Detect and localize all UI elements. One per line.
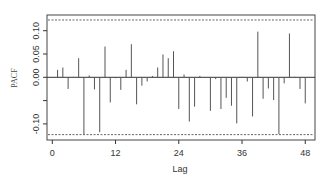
x-axis: 012243648 — [50, 140, 310, 158]
y-tick-label: 0.10 — [31, 22, 41, 40]
x-tick-label: 36 — [237, 148, 247, 158]
y-tick-label: 0.05 — [31, 45, 41, 63]
x-tick-label: 48 — [300, 148, 310, 158]
y-axis-title: PACF — [10, 68, 19, 88]
x-tick-label: 12 — [111, 148, 121, 158]
x-axis-title: Lag — [172, 164, 187, 174]
x-tick-label: 24 — [174, 148, 184, 158]
y-tick-label: -0.10 — [31, 114, 41, 135]
y-tick-label: 0.00 — [31, 69, 41, 87]
x-tick-label: 0 — [50, 148, 55, 158]
pacf-chart: 012243648 -0.100.000.050.10 Lag PACF — [0, 0, 327, 187]
y-axis: -0.100.000.050.10 — [31, 22, 47, 134]
pacf-bars — [58, 32, 306, 135]
